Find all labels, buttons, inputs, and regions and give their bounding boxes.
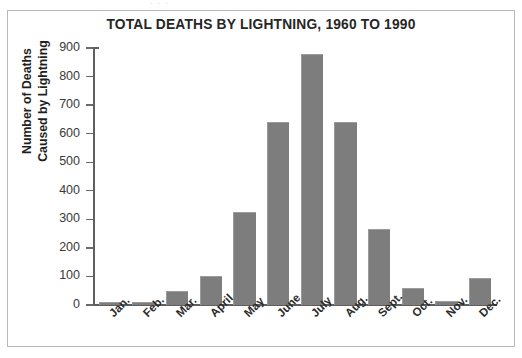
y-axis-tick bbox=[86, 190, 93, 191]
chart-figure: · · · TOTAL DEATHS BY LIGHTNING, 1960 TO… bbox=[0, 0, 522, 358]
y-axis-tick bbox=[86, 76, 93, 77]
y-axis-tick-label-text: 200 bbox=[34, 241, 80, 254]
y-axis-tick bbox=[86, 304, 93, 305]
y-axis-tick-label: 0 bbox=[34, 298, 80, 311]
chart-title: TOTAL DEATHS BY LIGHTNING, 1960 TO 1990 bbox=[13, 16, 509, 32]
bar bbox=[334, 122, 356, 305]
y-axis-tick bbox=[86, 247, 93, 248]
y-axis-tick-label: 300 bbox=[34, 212, 80, 225]
y-axis-title-line-1: Number of Deaths bbox=[19, 6, 35, 196]
y-axis-tick-label-text: 0 bbox=[34, 298, 80, 311]
y-axis-tick bbox=[86, 133, 93, 134]
bar bbox=[301, 54, 323, 305]
y-axis-tick bbox=[86, 276, 93, 277]
y-axis-tick-label-text: 100 bbox=[34, 269, 80, 282]
y-axis-tick bbox=[86, 219, 93, 220]
y-axis-title-line-2: Caused by Lightning bbox=[35, 6, 51, 196]
x-axis-tick-labels: Jan.Feb.Mar.AprilMayJuneJulyAug.Sept.Oct… bbox=[93, 306, 497, 356]
y-axis-tick bbox=[86, 104, 93, 105]
bar bbox=[233, 212, 255, 305]
y-axis-tick bbox=[86, 162, 93, 163]
y-axis-tick bbox=[86, 47, 93, 48]
y-axis-title: Number of Deaths Caused by Lightning bbox=[19, 6, 53, 196]
bar bbox=[267, 122, 289, 305]
y-axis-tick-label: 200 bbox=[34, 241, 80, 254]
bar-series bbox=[93, 48, 497, 305]
bar bbox=[368, 229, 390, 305]
y-axis-tick-label: 100 bbox=[34, 269, 80, 282]
y-axis-tick-label-text: 300 bbox=[34, 212, 80, 225]
scan-artifact-text: · · · bbox=[150, 0, 400, 7]
